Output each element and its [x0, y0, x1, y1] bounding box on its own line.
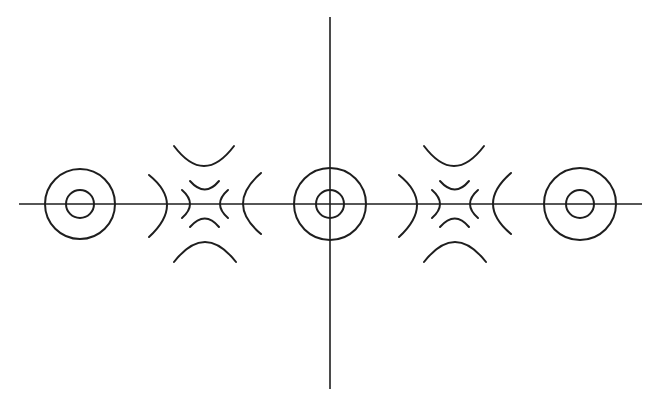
axes: [19, 17, 642, 389]
outer-left-arc: [399, 175, 417, 237]
diagram-canvas: [0, 0, 663, 409]
inner-top-arc: [190, 181, 219, 190]
outer-left-arc: [149, 175, 167, 237]
outer-top-arc: [174, 146, 234, 166]
outer-top-arc: [424, 146, 484, 166]
inner-bottom-arc: [190, 219, 219, 228]
inner-bottom-arc: [440, 219, 469, 228]
outer-bottom-arc: [424, 242, 486, 262]
inner-top-arc: [440, 181, 469, 190]
outer-bottom-arc: [174, 242, 236, 262]
